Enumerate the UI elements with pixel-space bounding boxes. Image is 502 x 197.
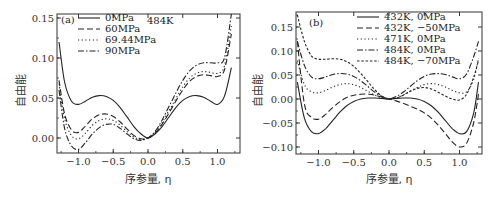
legend-entry: 69.44MPa [105,34,156,45]
panel-a-label: (a) [61,14,75,25]
legend-entry: 432K, −50MPa [384,22,461,33]
y-tick-label: 0.15 [32,13,54,24]
y-tick-label: −0.10 [262,142,293,153]
panel-a-legend: 0MPa60MPa69.44MPa90MPa [78,12,156,56]
x-tick-label: 0.0 [381,157,397,168]
panel-b-legend: 432K, 0MPa432K, −50MPa471K, 0MPa484K, 0M… [357,11,461,66]
panel-a-temperature: 484K [147,15,174,26]
legend-entry: 432K, 0MPa [384,11,446,22]
panel-a-ylabel: 自由能 [14,74,28,107]
legend-entry: 60MPa [105,23,140,34]
legend-entry: 90MPa [105,45,140,56]
y-tick-label: 0.05 [32,93,54,104]
legend-entry: 471K, 0MPa [384,33,446,44]
legend-entry: 0MPa [105,12,134,23]
panel-a-xlabel: 序参量, η [125,172,172,186]
y-tick-label: 0.15 [271,22,293,33]
y-tick-label: 0.00 [271,94,293,105]
figure: 0.000.050.100.15−1.0−0.50.00.51.0 (a) 48… [0,0,502,197]
y-tick-label: −0.05 [262,118,293,129]
x-tick-label: 0.5 [175,156,191,167]
panel-b-xlabel: 序参量, η [366,172,413,186]
x-tick-label: −0.5 [342,157,366,168]
x-tick-label: 0.5 [416,157,432,168]
series-line [59,34,231,139]
series-line [297,82,478,134]
legend-entry: 484K, 0MPa [384,44,446,55]
y-tick-label: 0.10 [32,53,54,64]
y-tick-label: 0.00 [32,133,54,144]
y-tick-label: 0.10 [271,46,293,57]
panel-b-label: (b) [309,17,323,28]
panel-b-ylabel: 自由能 [251,74,265,107]
x-tick-label: 1.0 [452,157,468,168]
series-line [59,42,231,138]
panel-b: −0.10−0.050.000.050.100.15−1.0−0.50.00.5… [251,11,482,186]
x-tick-label: −1.0 [66,156,90,167]
legend-entry: 484K, −70MPa [384,55,461,66]
x-tick-label: −1.0 [306,157,330,168]
panel-a: 0.000.050.100.15−1.0−0.50.00.51.0 (a) 48… [14,12,240,186]
x-tick-label: 0.0 [140,156,156,167]
x-tick-label: −0.5 [101,156,125,167]
y-tick-label: 0.05 [271,70,293,81]
x-tick-label: 1.0 [210,156,226,167]
